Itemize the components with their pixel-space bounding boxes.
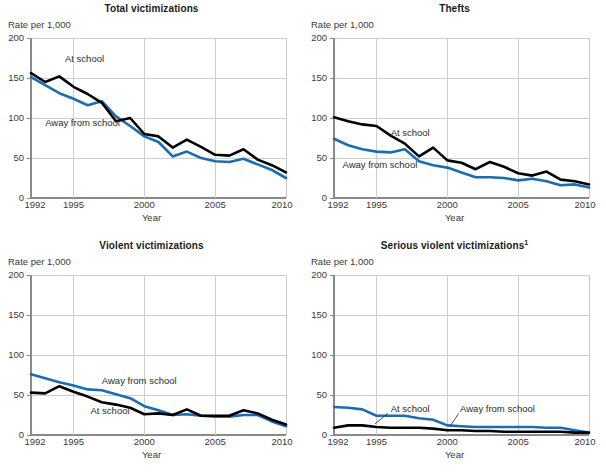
x-tick-label-2000: 2000 bbox=[430, 199, 464, 210]
x-axis-label: Year bbox=[303, 212, 606, 223]
y-tick-label-100: 100 bbox=[301, 112, 327, 123]
y-tick-label-150: 150 bbox=[0, 72, 24, 83]
series-label-at-school: At school bbox=[65, 53, 104, 64]
x-tick-label-2005: 2005 bbox=[198, 199, 232, 210]
series-label-away-from-school: Away from school bbox=[45, 117, 120, 128]
x-tick-label-1995: 1995 bbox=[57, 436, 91, 447]
y-tick-label-50: 50 bbox=[301, 152, 327, 163]
x-tick-label-1992: 1992 bbox=[321, 199, 355, 210]
x-tick-label-2000: 2000 bbox=[127, 436, 161, 447]
x-tick-label-1995: 1995 bbox=[57, 199, 91, 210]
x-tick-label-1992: 1992 bbox=[321, 436, 355, 447]
series-label-at-school: At school bbox=[391, 127, 430, 138]
x-axis-label: Year bbox=[0, 212, 303, 223]
y-tick-label-100: 100 bbox=[0, 112, 24, 123]
x-tick-label-2010: 2010 bbox=[568, 199, 602, 210]
series-label-away-from-school: Away from school bbox=[460, 403, 535, 414]
x-tick-label-2010: 2010 bbox=[265, 436, 299, 447]
x-tick-label-1992: 1992 bbox=[18, 199, 52, 210]
series-label-at-school: At school bbox=[91, 405, 130, 416]
y-tick-label-50: 50 bbox=[0, 389, 24, 400]
x-axis-label: Year bbox=[0, 449, 303, 460]
y-tick-label-200: 200 bbox=[0, 269, 24, 280]
y-tick-label-200: 200 bbox=[301, 32, 327, 43]
chart-panel-violent-victimizations: Violent victimizationsRate per 1,0000501… bbox=[0, 237, 303, 474]
x-tick-label-2000: 2000 bbox=[430, 436, 464, 447]
x-tick-label-2005: 2005 bbox=[198, 436, 232, 447]
chart-panel-total-victimizations: Total victimizationsRate per 1,000050100… bbox=[0, 0, 303, 237]
x-tick-label-1995: 1995 bbox=[360, 436, 394, 447]
y-tick-label-50: 50 bbox=[0, 152, 24, 163]
series-line-at-school bbox=[31, 386, 286, 424]
figure-panel-grid: Total victimizationsRate per 1,000050100… bbox=[0, 0, 606, 474]
y-tick-label-200: 200 bbox=[0, 32, 24, 43]
chart-panel-thefts: TheftsRate per 1,00005010015020019921995… bbox=[303, 0, 606, 237]
x-tick-label-2000: 2000 bbox=[127, 199, 161, 210]
x-axis-label: Year bbox=[303, 449, 606, 460]
series-label-away-from-school: Away from school bbox=[102, 375, 177, 386]
series-line-away-from-school bbox=[31, 77, 286, 178]
y-tick-label-150: 150 bbox=[0, 309, 24, 320]
x-tick-label-2005: 2005 bbox=[501, 199, 535, 210]
series-label-at-school: At school bbox=[391, 403, 430, 414]
y-tick-label-100: 100 bbox=[0, 349, 24, 360]
series-label-away-from-school: Away from school bbox=[343, 159, 418, 170]
y-tick-label-100: 100 bbox=[301, 349, 327, 360]
x-tick-label-2010: 2010 bbox=[265, 199, 299, 210]
chart-panel-serious-violent-victimizations: Serious violent victimizations1Rate per … bbox=[303, 237, 606, 474]
y-tick-label-150: 150 bbox=[301, 72, 327, 83]
x-tick-label-2010: 2010 bbox=[568, 436, 602, 447]
x-tick-label-1995: 1995 bbox=[360, 199, 394, 210]
y-tick-label-150: 150 bbox=[301, 309, 327, 320]
leader-line-away-from-school bbox=[450, 413, 459, 426]
x-tick-label-1992: 1992 bbox=[18, 436, 52, 447]
y-tick-label-200: 200 bbox=[301, 269, 327, 280]
x-tick-label-2005: 2005 bbox=[501, 436, 535, 447]
y-tick-label-50: 50 bbox=[301, 389, 327, 400]
